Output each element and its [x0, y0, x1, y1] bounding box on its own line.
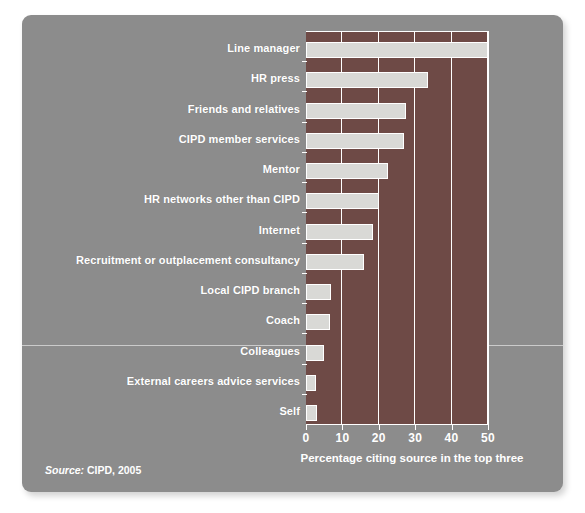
bar: [306, 254, 364, 270]
bar: [306, 314, 330, 330]
y-tick: [302, 61, 307, 62]
x-tick: [379, 424, 380, 430]
x-tick: [452, 424, 453, 430]
x-tick: [306, 424, 307, 430]
bar: [306, 42, 488, 58]
category-label: Local CIPD branch: [201, 284, 301, 296]
bar: [306, 193, 379, 209]
x-tick-label: 10: [322, 431, 362, 445]
x-tick-label: 40: [432, 431, 472, 445]
category-label: Line manager: [227, 42, 300, 54]
x-tick: [415, 424, 416, 430]
category-label: Mentor: [263, 163, 300, 175]
bar: [306, 163, 388, 179]
category-label: Self: [279, 405, 300, 417]
y-tick: [302, 91, 307, 92]
x-tick: [342, 424, 343, 430]
y-tick: [302, 303, 307, 304]
y-tick: [302, 273, 307, 274]
y-tick: [302, 394, 307, 395]
source-value: CIPD, 2005: [87, 464, 141, 476]
bar: [306, 405, 317, 421]
category-label: CIPD member services: [179, 133, 300, 145]
bar: [306, 284, 331, 300]
y-tick: [302, 122, 307, 123]
bar: [306, 375, 316, 391]
source-prefix: Source:: [45, 464, 84, 476]
gridline: [414, 32, 415, 425]
y-tick: [302, 364, 307, 365]
category-label: Recruitment or outplacement consultancy: [76, 254, 300, 266]
x-tick-label: 50: [468, 431, 508, 445]
y-tick: [302, 152, 307, 153]
y-tick: [302, 243, 307, 244]
chart-figure: 01020304050 Line managerHR pressFriends …: [0, 0, 585, 513]
x-axis-line: [306, 424, 489, 425]
y-tick: [302, 182, 307, 183]
gridline: [487, 32, 488, 425]
gridline: [451, 32, 452, 425]
x-tick: [488, 424, 489, 430]
category-label: HR press: [251, 72, 300, 84]
bar: [306, 345, 324, 361]
x-tick-label: 30: [395, 431, 435, 445]
source-note: Source: CIPD, 2005: [45, 464, 141, 476]
bar: [306, 133, 404, 149]
gridline: [378, 32, 379, 425]
category-label: Internet: [259, 224, 300, 236]
category-label: Friends and relatives: [188, 103, 300, 115]
category-label: External careers advice services: [127, 375, 300, 387]
chart-panel: 01020304050 Line managerHR pressFriends …: [22, 15, 563, 492]
bar: [306, 103, 406, 119]
category-label: Colleagues: [240, 345, 300, 357]
category-label: Coach: [266, 314, 300, 326]
plot-area: [306, 31, 489, 425]
y-tick: [302, 212, 307, 213]
bar: [306, 224, 373, 240]
x-tick-label: 0: [286, 431, 326, 445]
bar: [306, 72, 428, 88]
category-label: HR networks other than CIPD: [144, 193, 300, 205]
x-axis-title: Percentage citing source in the top thre…: [262, 452, 562, 464]
x-tick-label: 20: [359, 431, 399, 445]
y-tick: [302, 333, 307, 334]
